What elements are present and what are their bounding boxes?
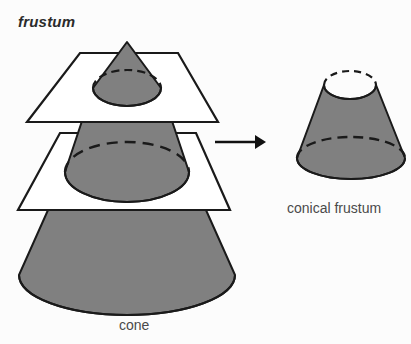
diagram-page: frustum cone conical frustum <box>0 0 411 344</box>
conical-frustum-top-back-arc <box>324 71 376 85</box>
small-cone-tip <box>93 42 161 106</box>
frustum-diagram <box>0 0 411 344</box>
label-conical-frustum: conical frustum <box>287 200 381 216</box>
transform-arrow <box>215 135 266 149</box>
arrow-head <box>255 135 266 149</box>
label-cone: cone <box>119 317 149 333</box>
page-title: frustum <box>18 13 75 30</box>
conical-frustum-result <box>297 71 405 179</box>
